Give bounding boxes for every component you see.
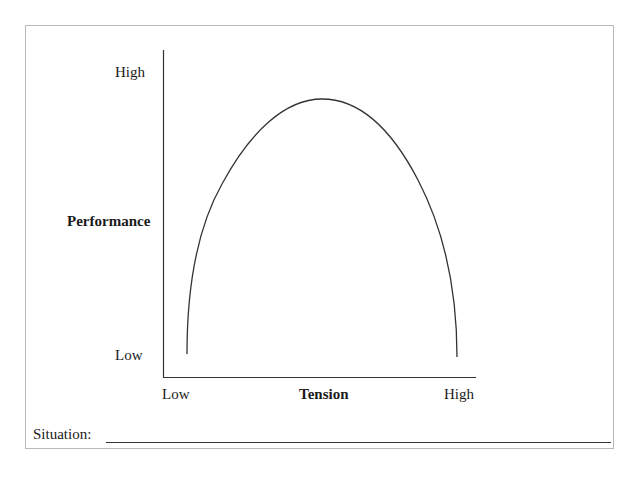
chart-plot (0, 0, 640, 479)
y-axis-title: Performance (67, 212, 150, 230)
x-axis-title: Tension (299, 385, 348, 403)
x-axis-low-label: Low (162, 385, 190, 403)
x-axis-high-label: High (444, 385, 474, 403)
performance-curve (187, 99, 457, 357)
y-axis-high-label: High (115, 63, 145, 81)
situation-label: Situation: (33, 425, 91, 443)
y-axis-low-label: Low (115, 346, 143, 364)
